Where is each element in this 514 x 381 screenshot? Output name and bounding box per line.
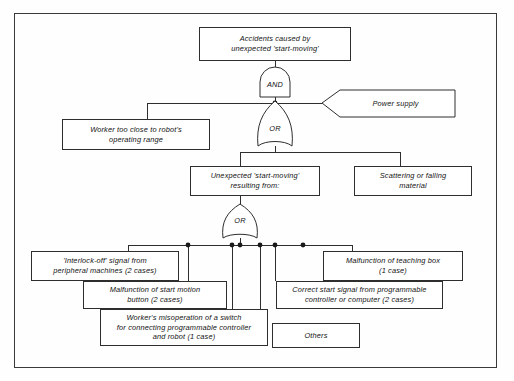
- teaching-line1: Malfunction of teaching box: [346, 256, 440, 265]
- start-motion-line1: Malfunction of start motion: [110, 285, 201, 294]
- worker-too-close-box[interactable]: Worker too close to robot's operating ra…: [62, 119, 210, 150]
- scattering-line2: material: [399, 181, 427, 190]
- interlock-off-text: 'Interlock-off' signal from peripheral m…: [53, 256, 156, 276]
- misoperation-line3: and robot (1 case): [153, 332, 216, 341]
- misoperation-line1: Worker's misoperation of a switch: [126, 313, 241, 322]
- power-supply-label: Power supply: [358, 99, 418, 108]
- unexpected-line2: resulting from:: [230, 181, 279, 190]
- unexpected-start-moving-box[interactable]: Unexpected 'start-moving' resulting from…: [190, 166, 320, 196]
- correct-start-signal-text: Correct start signal from programmable c…: [292, 285, 426, 305]
- worker-too-close-text: Worker too close to robot's operating ra…: [90, 125, 182, 145]
- interlock-off-box[interactable]: 'Interlock-off' signal from peripheral m…: [31, 251, 179, 281]
- junction-dot-start-motion: [186, 243, 191, 248]
- worker-misoperation-text: Worker's misoperation of a switch for co…: [117, 313, 251, 342]
- teaching-box-event[interactable]: Malfunction of teaching box (1 case): [323, 251, 463, 281]
- junction-dot-extra: [301, 243, 306, 248]
- interlock-line1: 'Interlock-off' signal from: [63, 256, 147, 265]
- junction-dot-or-output: [238, 243, 243, 248]
- scattering-material-box[interactable]: Scattering or falling material: [354, 166, 472, 196]
- interlock-line2: peripheral machines (2 cases): [53, 266, 156, 275]
- teaching-box-text: Malfunction of teaching box (1 case): [346, 256, 440, 276]
- start-motion-line2: button (2 cases): [127, 295, 182, 304]
- fault-tree-diagram-page: Accidents caused by unexpected 'start-mo…: [0, 0, 514, 381]
- top-event-box[interactable]: Accidents caused by unexpected 'start-mo…: [199, 27, 351, 61]
- scattering-line1: Scattering or falling: [380, 171, 446, 180]
- junction-dot-others: [258, 243, 263, 248]
- correct-signal-line2: controller or computer (2 cases): [305, 295, 414, 304]
- start-motion-button-box[interactable]: Malfunction of start motion button (2 ca…: [83, 281, 227, 309]
- top-event-line2: unexpected 'start-moving': [231, 44, 319, 53]
- unexpected-start-moving-text: Unexpected 'start-moving' resulting from…: [211, 171, 300, 191]
- top-event-line1: Accidents caused by: [240, 34, 311, 43]
- unexpected-line1: Unexpected 'start-moving': [211, 171, 300, 180]
- misoperation-line2: for connecting programmable controller: [117, 323, 251, 332]
- others-box[interactable]: Others: [272, 323, 360, 348]
- correct-start-signal-box[interactable]: Correct start signal from programmable c…: [276, 281, 443, 309]
- scattering-material-text: Scattering or falling material: [380, 171, 446, 191]
- worker-too-close-line2: operating range: [109, 135, 163, 144]
- and-gate-shape: [260, 67, 290, 97]
- junction-dot-misoperation: [230, 243, 235, 248]
- or-gate-mid-shape: [258, 101, 293, 146]
- power-supply-event[interactable]: Power supply: [322, 90, 455, 117]
- start-motion-text: Malfunction of start motion button (2 ca…: [110, 285, 201, 305]
- junction-dot-correct-signal: [273, 243, 278, 248]
- top-event-text: Accidents caused by unexpected 'start-mo…: [231, 34, 319, 54]
- worker-too-close-line1: Worker too close to robot's: [90, 125, 182, 134]
- correct-signal-line1: Correct start signal from programmable: [292, 285, 426, 294]
- worker-misoperation-box[interactable]: Worker's misoperation of a switch for co…: [100, 309, 268, 346]
- teaching-line2: (1 case): [379, 266, 407, 275]
- or-gate-bottom-shape: [223, 204, 258, 238]
- others-label: Others: [304, 331, 327, 341]
